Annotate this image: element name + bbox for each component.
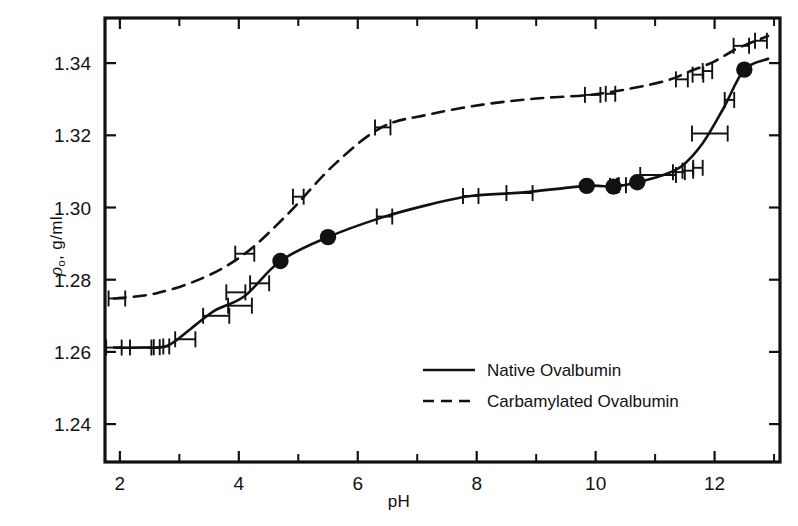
- legend: Native OvalbuminCarbamylated Ovalbumin: [423, 361, 679, 411]
- svg-text:4: 4: [234, 473, 245, 494]
- svg-text:2: 2: [115, 473, 126, 494]
- svg-text:1.26: 1.26: [54, 342, 91, 363]
- figure-container: 246810121.241.261.281.301.321.34 Native …: [0, 0, 798, 526]
- axis-tick-labels: 246810121.241.261.281.301.321.34: [54, 53, 725, 494]
- chart-plot-area: 246810121.241.261.281.301.321.34 Native …: [0, 0, 798, 526]
- svg-text:1.24: 1.24: [54, 414, 91, 435]
- data-series: [114, 36, 768, 348]
- y-axis-units: , g/ml: [47, 216, 66, 260]
- svg-text:1.34: 1.34: [54, 53, 91, 74]
- y-axis-symbol: ρ: [45, 266, 66, 276]
- svg-text:12: 12: [704, 473, 725, 494]
- svg-text:10: 10: [585, 473, 606, 494]
- svg-text:Native Ovalbumin: Native Ovalbumin: [487, 361, 621, 380]
- svg-text:Carbamylated Ovalbumin: Carbamylated Ovalbumin: [487, 392, 679, 411]
- svg-text:6: 6: [352, 473, 363, 494]
- data-point-markers: [272, 61, 752, 269]
- x-axis-title: pH: [364, 492, 434, 512]
- y-axis-subscript: o: [55, 260, 67, 267]
- svg-text:8: 8: [471, 473, 482, 494]
- error-bars: [106, 33, 767, 356]
- y-axis-title: ρo, g/ml: [45, 176, 67, 316]
- svg-text:1.32: 1.32: [54, 125, 91, 146]
